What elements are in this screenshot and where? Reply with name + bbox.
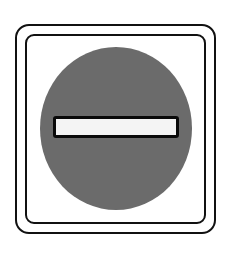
no-entry-sign	[0, 0, 232, 255]
horizontal-bar-icon	[53, 116, 179, 138]
